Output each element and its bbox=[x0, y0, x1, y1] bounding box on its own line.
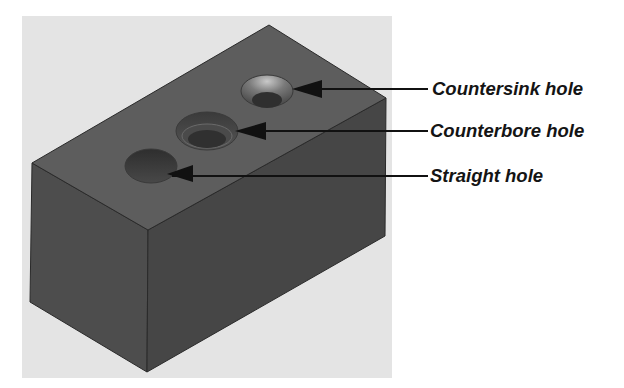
counterbore-hole bbox=[176, 112, 238, 150]
hole-types-diagram: Countersink hole Counterbore hole Straig… bbox=[0, 0, 624, 388]
label-countersink-hole: Countersink hole bbox=[432, 80, 583, 99]
block-illustration bbox=[0, 0, 624, 388]
label-straight-hole: Straight hole bbox=[430, 167, 543, 186]
label-counterbore-hole: Counterbore hole bbox=[430, 122, 584, 141]
straight-hole bbox=[125, 149, 177, 183]
